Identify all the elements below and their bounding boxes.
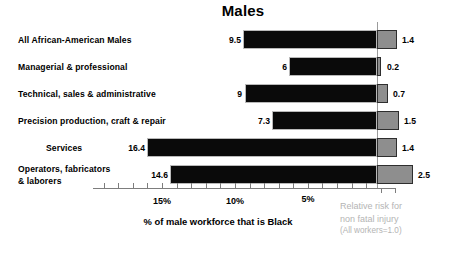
axis-tick: [264, 183, 265, 188]
x-axis-title: % of male workforce that is Black: [98, 216, 338, 227]
x-axis-title-text: % of male workforce that is Black: [143, 216, 292, 227]
axis-tick: [293, 183, 294, 188]
category-label: Managerial & professional: [18, 54, 127, 80]
relative-risk-label: 1.4: [402, 27, 414, 53]
axis-tick-label: 5%: [288, 194, 328, 204]
relative-risk-label: 1.4: [402, 135, 414, 161]
legend-note-line3: (All workers=1.0): [340, 225, 452, 238]
legend-relative-risk-note: Relative risk for non fatal injury (All …: [340, 200, 452, 238]
bar-percent-black: [245, 84, 377, 103]
axis-tick: [279, 183, 280, 188]
chart-title-text: Males: [222, 2, 265, 19]
chart-row: Operators, fabricators & laborers 14.6 2…: [0, 162, 456, 188]
axis-tick: [206, 183, 207, 188]
axis-tick: [162, 183, 163, 188]
chart-row: Precision production, craft & repair 7.3…: [0, 108, 456, 134]
bar-relative-risk: [377, 165, 413, 184]
category-label-text-line2: & laborers: [18, 176, 110, 188]
relative-risk-text: 0.2: [387, 62, 399, 72]
relative-risk-label: 1.5: [404, 108, 416, 134]
page-title: Males: [0, 2, 456, 19]
bar-percent-black: [147, 138, 377, 157]
relative-risk-label: 0.7: [393, 81, 405, 107]
category-label-text: All African-American Males: [18, 35, 132, 45]
axis-tick-label-text: 10%: [226, 196, 244, 206]
legend-note-line1: Relative risk for: [340, 200, 452, 213]
axis-tick: [366, 183, 367, 188]
category-label-text: Precision production, craft & repair: [18, 116, 166, 126]
axis-tick: [235, 183, 236, 188]
percent-value-label: 6: [255, 54, 287, 80]
chart-row: Managerial & professional 6 0.2: [0, 54, 456, 80]
category-label: Technical, sales & administrative: [18, 81, 156, 107]
relative-risk-text: 1.4: [402, 143, 414, 153]
category-label: Services: [46, 135, 82, 161]
bar-relative-risk: [377, 84, 388, 103]
axis-tick: [147, 183, 148, 188]
axis-tick: [191, 183, 192, 188]
axis-tick: [352, 183, 353, 188]
chart-row: Services 16.4 1.4: [0, 135, 456, 161]
percent-value-text: 9.5: [229, 35, 241, 45]
axis-tick: [220, 183, 221, 188]
relative-risk-label: 2.5: [418, 162, 430, 188]
category-label: All African-American Males: [18, 27, 132, 53]
bar-percent-black: [289, 57, 377, 76]
category-label: Precision production, craft & repair: [18, 108, 166, 134]
percent-value-label: 9: [210, 81, 242, 107]
relative-risk-text: 2.5: [418, 170, 430, 180]
bar-relative-risk: [377, 30, 397, 49]
axis-tick: [250, 183, 251, 188]
percent-value-text: 7.3: [258, 116, 270, 126]
axis-tick: [395, 188, 396, 193]
bar-percent-black: [170, 165, 377, 184]
axis-tick: [104, 183, 105, 188]
percent-value-text: 14.6: [151, 170, 168, 180]
bar-percent-black: [272, 111, 377, 130]
x-axis-line: [93, 188, 395, 189]
axis-tick-label-text: 15%: [153, 196, 171, 206]
axis-tick: [177, 183, 178, 188]
category-label-text: Managerial & professional: [18, 62, 127, 72]
category-label-text: Technical, sales & administrative: [18, 89, 156, 99]
category-label-text: Operators, fabricators: [18, 164, 110, 174]
chart-container: Males All African-American Males 9.5 1.4…: [0, 0, 456, 253]
relative-risk-text: 1.5: [404, 116, 416, 126]
relative-risk-text: 1.4: [402, 35, 414, 45]
axis-tick-label: 10%: [215, 196, 255, 206]
axis-tick-label-text: 5%: [301, 194, 314, 204]
axis-tick: [381, 188, 382, 193]
axis-tick: [118, 183, 119, 188]
chart-row: All African-American Males 9.5 1.4: [0, 27, 456, 53]
axis-tick: [133, 183, 134, 188]
percent-value-label: 9.5: [203, 27, 241, 53]
percent-value-text: 16.4: [128, 143, 145, 153]
bar-relative-risk: [377, 138, 397, 157]
category-label-text: Services: [46, 143, 82, 153]
bar-relative-risk: [377, 111, 399, 130]
bar-percent-black: [243, 30, 377, 49]
percent-value-label: 16.4: [105, 135, 145, 161]
axis-tick-label: 15%: [142, 196, 182, 206]
percent-value-label: 7.3: [232, 108, 270, 134]
chart-row: Technical, sales & administrative 9 0.7: [0, 81, 456, 107]
relative-risk-text: 0.7: [393, 89, 405, 99]
relative-risk-label: 0.2: [387, 54, 399, 80]
axis-tick: [308, 183, 309, 188]
category-label: Operators, fabricators & laborers: [18, 162, 110, 190]
bar-relative-risk: [377, 57, 381, 76]
legend-note-line2: non fatal injury: [340, 213, 452, 226]
percent-value-text: 6: [282, 62, 287, 72]
percent-value-text: 9: [237, 89, 242, 99]
axis-tick: [337, 183, 338, 188]
axis-tick: [322, 183, 323, 188]
